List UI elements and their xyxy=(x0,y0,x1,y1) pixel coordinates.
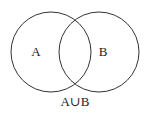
set-a-label: A xyxy=(31,44,41,59)
set-b-label: B xyxy=(99,44,108,59)
set-a-circle xyxy=(11,12,91,92)
venn-diagram: A B A∪B xyxy=(0,0,149,113)
union-caption: A∪B xyxy=(61,94,90,109)
